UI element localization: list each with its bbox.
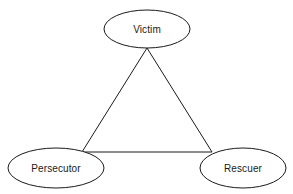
- node-persecutor[interactable]: Persecutor: [8, 148, 104, 188]
- node-rescuer[interactable]: Rescuer: [200, 148, 286, 188]
- persecutor-label: Persecutor: [31, 163, 81, 174]
- diagram-canvas: Victim Persecutor Rescuer: [0, 0, 293, 194]
- drama-triangle-diagram: Victim Persecutor Rescuer: [0, 0, 293, 194]
- node-victim[interactable]: Victim: [104, 10, 190, 48]
- triangle-connector: [82, 48, 212, 152]
- victim-label: Victim: [133, 24, 161, 35]
- rescuer-label: Rescuer: [224, 163, 263, 174]
